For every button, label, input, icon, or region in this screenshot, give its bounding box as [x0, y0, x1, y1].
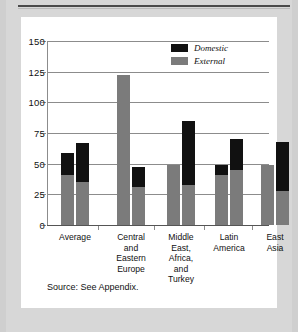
page-edge-right — [292, 0, 298, 332]
bar-segment-domestic — [276, 142, 289, 191]
page-edge-left — [0, 0, 6, 332]
chart-bar — [167, 165, 180, 225]
bar-segment-external — [215, 175, 228, 225]
chart-bar — [117, 75, 130, 225]
category-label: Middle East, Africa, and Turkey — [155, 232, 207, 285]
bar-segment-external — [261, 165, 274, 225]
chart-bar — [182, 121, 195, 225]
legend-swatch-external-icon — [171, 57, 188, 65]
chart-bar — [276, 142, 289, 225]
top-divider-rule-secondary — [18, 8, 290, 9]
bar-segment-external — [132, 187, 145, 225]
category-label: Average — [49, 232, 101, 243]
legend-item-domestic: Domestic — [171, 42, 228, 53]
bar-segment-domestic — [215, 165, 228, 175]
bar-segment-domestic — [61, 153, 74, 175]
bar-segment-external — [276, 191, 289, 225]
x-tick-mark — [252, 226, 253, 230]
legend-swatch-domestic-icon — [171, 44, 188, 52]
bar-segment-domestic — [132, 167, 145, 187]
category-label: East Asia — [249, 232, 298, 253]
chart-bar — [230, 139, 243, 225]
bar-segment-external — [117, 75, 130, 225]
x-tick-mark — [204, 226, 205, 230]
legend-label-domestic: Domestic — [194, 43, 228, 53]
category-label: Latin America — [203, 232, 255, 253]
legend-item-external: External — [171, 55, 228, 66]
chart-panel: 0255075100125150 AverageCentral and East… — [21, 17, 277, 308]
bar-segment-domestic — [182, 121, 195, 185]
chart-bar — [215, 165, 228, 225]
x-tick-mark — [154, 226, 155, 230]
bar-segment-domestic — [76, 143, 89, 182]
figure-root: 0255075100125150 AverageCentral and East… — [0, 0, 298, 332]
bar-segment-external — [230, 170, 243, 225]
top-divider-rule — [18, 5, 290, 7]
bar-segment-external — [76, 182, 89, 225]
source-note: Source: See Appendix. — [47, 282, 139, 292]
chart-bar — [61, 153, 74, 225]
legend-label-external: External — [194, 56, 225, 66]
chart-bar — [261, 165, 274, 225]
chart-bar — [76, 143, 89, 225]
bar-segment-external — [182, 185, 195, 225]
x-tick-mark — [98, 226, 99, 230]
chart-bar — [132, 167, 145, 225]
chart-legend: Domestic External — [171, 42, 228, 68]
category-label: Central and Eastern Europe — [105, 232, 157, 274]
bar-segment-external — [61, 175, 74, 225]
bar-segment-domestic — [230, 139, 243, 170]
bar-segment-external — [167, 165, 180, 225]
